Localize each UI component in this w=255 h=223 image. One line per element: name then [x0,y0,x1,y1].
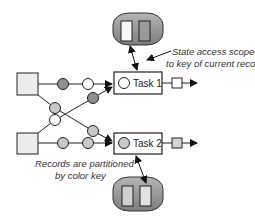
state-access-annotation-line2: to key of current record [166,58,255,69]
record-mid [88,126,99,137]
task-2-record-icon [119,138,130,149]
task-2-output-record [172,138,182,148]
record-mid [58,138,69,149]
task-1-output-record [172,78,182,88]
source-partition-1 [17,73,38,95]
record-light [50,115,61,126]
state-slot-icon [140,186,151,206]
state-store-2 [113,177,163,211]
task-1: Task 1 [114,72,162,94]
task-2-label: Task 2 [133,138,162,149]
partition-annotation-line2: by color key [55,170,107,181]
state-access-arrow-1 [130,46,137,70]
shuffle-edge [38,87,112,133]
record-dark [88,93,99,104]
state-slot-icon [122,186,133,206]
shuffle-edge [38,95,112,141]
state-slot-icon [121,21,132,41]
state-slot-icon [139,21,150,41]
state-access-annotation-line1: State access scoped [172,46,255,57]
record-light [83,79,94,90]
task-1-label: Task 1 [133,78,162,89]
record-mid [83,138,94,149]
record-mid [50,103,61,114]
source-partition-2 [17,133,38,154]
record-dark [58,79,69,90]
task-2: Task 2 [114,133,162,154]
task-1-record-icon [119,78,130,89]
state-store-1 [113,13,163,45]
stream-partition-diagram: Task 1 Task 2 State access scoped to key… [0,0,255,223]
partition-annotation-line1: Records are partitioned [35,158,134,169]
